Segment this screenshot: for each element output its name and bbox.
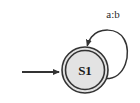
transition-label-self-loop: a:b <box>106 8 120 20</box>
fsa-diagram-svg: S1 a:b <box>0 0 140 103</box>
fsa-diagram-canvas: S1 a:b <box>0 0 140 103</box>
state-label-s1: S1 <box>78 63 92 78</box>
state-node-s1[interactable]: S1 <box>62 47 108 93</box>
